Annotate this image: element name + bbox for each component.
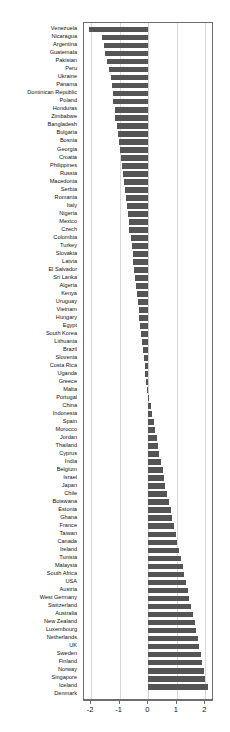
bar (148, 596, 189, 602)
category-label: Turkey (0, 242, 77, 248)
bar (148, 467, 162, 473)
category-label: Uruguay (0, 298, 77, 304)
category-label: Czech (0, 226, 77, 232)
bar (148, 652, 201, 658)
bar (102, 35, 148, 41)
category-label: Guatemala (0, 49, 77, 55)
category-label: Mexico (0, 218, 77, 224)
category-label: Singapore (0, 674, 77, 680)
category-label: Slovakia (0, 250, 77, 256)
bar (143, 347, 148, 353)
bar (118, 131, 148, 137)
bar (148, 676, 205, 682)
category-label: USA (0, 578, 77, 584)
x-tick-mark (176, 700, 177, 704)
bar (136, 283, 148, 289)
category-label: Taiwan (0, 530, 77, 536)
bar (115, 115, 148, 121)
bar (148, 451, 159, 457)
category-label: Switzerland (0, 602, 77, 608)
bar (148, 668, 203, 674)
bar (148, 435, 156, 441)
bar (148, 483, 165, 489)
bar (131, 235, 149, 241)
bar (145, 371, 148, 377)
category-label: Poland (0, 97, 77, 103)
bar (121, 155, 148, 161)
bar (147, 387, 148, 393)
bar (148, 427, 155, 433)
category-label: Algeria (0, 282, 77, 288)
category-label: Costa Rica (0, 362, 77, 368)
category-label: Finland (0, 658, 77, 664)
category-label: New Zealand (0, 618, 77, 624)
category-label: Georgia (0, 146, 77, 152)
bar (148, 515, 172, 521)
category-label: Bosnia (0, 137, 77, 143)
category-label-column: VenezuelaNicaraguaArgentinaGuatemalaPaki… (0, 22, 79, 700)
category-label: Macedonia (0, 178, 77, 184)
category-label: Malaysia (0, 562, 77, 568)
bar (139, 315, 148, 321)
bar (148, 564, 182, 570)
category-label: Zimbabwe (0, 113, 77, 119)
bar (123, 171, 148, 177)
category-label: Ukraine (0, 73, 77, 79)
bar (133, 259, 148, 265)
bar (137, 291, 148, 297)
category-label: Sweden (0, 650, 77, 656)
bar (109, 67, 148, 73)
category-label: Denmark (0, 690, 77, 696)
gridline-neg2 (91, 23, 92, 699)
bar (139, 307, 149, 313)
category-label: Ireland (0, 546, 77, 552)
bar (141, 331, 148, 337)
bar (148, 475, 164, 481)
bar (148, 604, 191, 610)
category-label: Spain (0, 418, 77, 424)
bar (148, 507, 170, 513)
category-label: Italy (0, 202, 77, 208)
bar (148, 411, 152, 417)
bar (127, 203, 148, 209)
x-tick-label: 2 (194, 705, 214, 714)
category-label: Uganda (0, 370, 77, 376)
bar (148, 636, 198, 642)
category-label: Panama (0, 81, 77, 87)
bar (148, 644, 199, 650)
category-label: Estonia (0, 506, 77, 512)
bar (119, 139, 148, 145)
x-tick-label: -1 (109, 705, 129, 714)
category-label: France (0, 522, 77, 528)
bar (148, 580, 186, 586)
bar (148, 523, 174, 529)
bar (138, 299, 149, 305)
category-label: Tunisia (0, 554, 77, 560)
category-label: Botswana (0, 498, 77, 504)
category-label: Dominican Republic (0, 89, 77, 95)
bar (112, 83, 149, 89)
category-label: Bangladesh (0, 121, 77, 127)
category-label: Austria (0, 586, 77, 592)
bar (142, 339, 148, 345)
x-tick-label: -2 (80, 705, 100, 714)
category-label: Vietnam (0, 306, 77, 312)
bar (113, 99, 148, 105)
category-label: Netherlands (0, 634, 77, 640)
bar (148, 556, 181, 562)
bar (89, 27, 148, 33)
category-label: West Germany (0, 594, 77, 600)
bar (148, 532, 175, 538)
category-label: Romania (0, 194, 77, 200)
bar (134, 267, 148, 273)
x-tick-mark (119, 700, 120, 704)
bar (148, 684, 208, 690)
category-label: Belgium (0, 466, 77, 472)
category-label: Sri Lanka (0, 274, 77, 280)
category-label: Australia (0, 610, 77, 616)
category-label: Portugal (0, 394, 77, 400)
x-tick-label: 1 (166, 705, 186, 714)
category-label: Luxembourg (0, 626, 77, 632)
category-label: Peru (0, 65, 77, 71)
bar (129, 227, 148, 233)
